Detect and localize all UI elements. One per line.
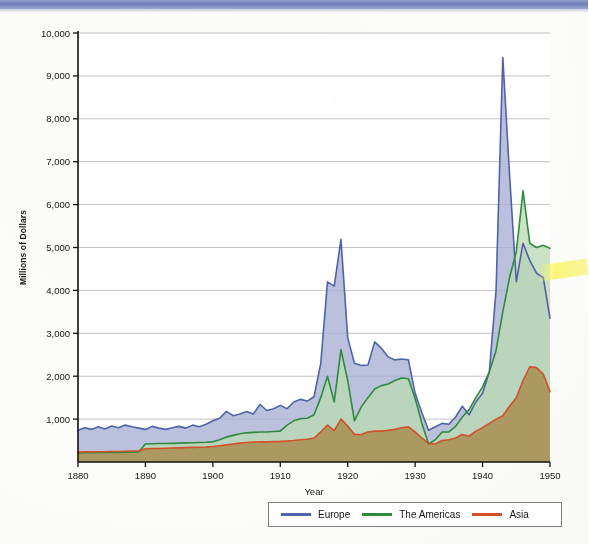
x-tick-label: 1880 [67, 470, 88, 481]
y-tick-label: 6,000 [46, 199, 70, 210]
y-axis-ticks: 1,0002,0003,0004,0005,0006,0007,0008,000… [41, 28, 78, 425]
x-tick-label: 1930 [405, 470, 426, 481]
x-tick-label: 1950 [539, 470, 560, 481]
legend-label: Europe [318, 509, 350, 520]
legend-label: Asia [509, 509, 528, 520]
legend-swatch-icon [362, 513, 392, 516]
y-tick-label: 2,000 [46, 371, 70, 382]
legend-item-asia[interactable]: Asia [460, 503, 528, 526]
y-tick-label: 8,000 [46, 113, 70, 124]
legend-item-europe[interactable]: Europe [269, 503, 350, 526]
legend-label: The Americas [399, 509, 460, 520]
x-tick-label: 1920 [337, 470, 358, 481]
x-axis-ticks: 18801890190019101920193019401950 [67, 462, 560, 481]
legend-swatch-icon [472, 513, 502, 516]
x-tick-label: 1940 [472, 470, 493, 481]
y-tick-label: 1,000 [46, 414, 70, 425]
legend-swatch-icon [281, 513, 311, 516]
y-axis-title: Millions of Dollars [18, 210, 28, 285]
y-tick-label: 3,000 [46, 328, 70, 339]
y-tick-label: 9,000 [46, 70, 70, 81]
x-axis-title: Year [304, 486, 323, 497]
y-tick-label: 10,000 [41, 28, 70, 39]
y-tick-label: 4,000 [46, 285, 70, 296]
chart-legend: EuropeThe AmericasAsia [268, 502, 562, 527]
y-tick-label: 7,000 [46, 156, 70, 167]
x-tick-label: 1890 [135, 470, 156, 481]
x-tick-label: 1900 [202, 470, 223, 481]
x-tick-label: 1910 [270, 470, 291, 481]
y-tick-label: 5,000 [46, 242, 70, 253]
legend-item-the-americas[interactable]: The Americas [350, 503, 460, 526]
